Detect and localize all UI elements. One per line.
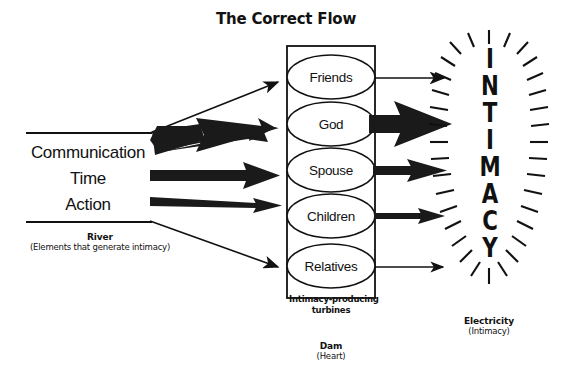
dam-caption-title: Dam <box>281 341 381 351</box>
intimacy-letter-6: A <box>474 181 507 208</box>
node-label-children: Children <box>286 209 376 224</box>
electricity-caption-title: Electricity <box>429 316 549 326</box>
intimacy-letter-2: N <box>474 73 507 100</box>
intimacy-wordmark: I N T I M A C Y <box>470 46 510 262</box>
river-bank-top <box>26 132 152 134</box>
river-bank-bottom <box>26 221 152 223</box>
node-label-relatives: Relatives <box>286 259 376 274</box>
diagram-canvas: The Correct Flow <box>0 0 572 388</box>
node-label-friends: Friends <box>286 70 376 85</box>
turbine-label: Intimacy-producing turbines <box>289 294 373 315</box>
intimacy-letter-5: M <box>474 154 507 181</box>
inflow-arrow-large <box>150 118 279 155</box>
river-caption: River (Elements that generate intimacy) <box>10 232 190 252</box>
river-caption-title: River <box>10 232 190 242</box>
electricity-caption-subtitle: (Intimacy) <box>429 326 549 336</box>
river-elements: Communication Time Action <box>18 140 158 218</box>
electricity-caption: Electricity (Intimacy) <box>429 316 549 336</box>
intimacy-letter-8: Y <box>474 235 507 262</box>
dam-caption-subtitle: (Heart) <box>281 351 381 361</box>
intimacy-letter-4: I <box>474 127 507 154</box>
river-element-action: Action <box>18 192 158 218</box>
inflow-arrow-small <box>150 197 282 213</box>
river-element-communication: Communication <box>18 140 158 166</box>
dam-caption: Dam (Heart) <box>281 341 381 361</box>
node-label-god: God <box>286 117 376 132</box>
inflow-arrow-medium <box>150 162 280 189</box>
river-caption-subtitle: (Elements that generate intimacy) <box>10 242 190 252</box>
turbine-label-line1: Intimacy-producing <box>289 294 373 305</box>
intimacy-letter-3: T <box>474 100 507 127</box>
intimacy-letter-1: I <box>474 46 507 73</box>
river-element-time: Time <box>18 166 158 192</box>
intimacy-letter-7: C <box>474 208 507 235</box>
node-label-spouse: Spouse <box>286 163 376 178</box>
output-arrow-spouse <box>373 159 447 182</box>
turbine-label-line2: turbines <box>289 305 373 316</box>
output-arrow-children <box>374 208 445 224</box>
